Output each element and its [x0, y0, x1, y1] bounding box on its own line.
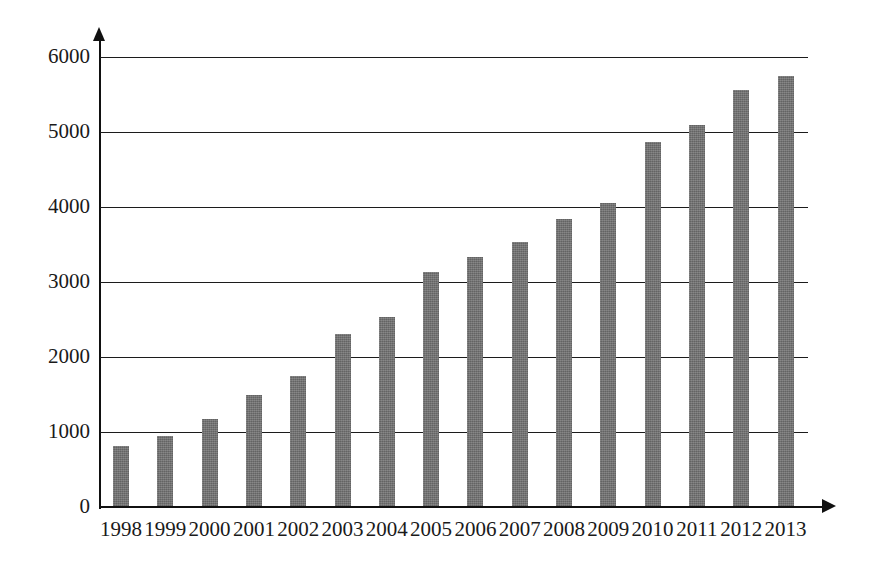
bar	[600, 203, 616, 507]
bar	[379, 317, 395, 507]
bars-layer	[100, 45, 824, 507]
bar	[645, 142, 661, 507]
y-tick-label-0: 0	[34, 496, 90, 517]
bar	[733, 90, 749, 507]
y-tick-label-5000: 5000	[34, 121, 90, 142]
x-axis-line	[99, 506, 823, 508]
bar	[246, 395, 262, 508]
bar	[157, 436, 173, 507]
bar	[467, 257, 483, 508]
y-tick-label-3000: 3000	[34, 271, 90, 292]
y-axis-arrow-icon	[93, 27, 105, 41]
y-axis-tick-labels: 0100020003000400050006000	[28, 0, 90, 568]
x-axis-tick-labels: 1998199920002001200220032004200520062007…	[100, 518, 824, 552]
bar	[556, 219, 572, 507]
bar	[335, 334, 351, 507]
bar	[689, 125, 705, 507]
bar	[202, 419, 218, 508]
bar	[778, 76, 794, 507]
bar	[290, 376, 306, 507]
y-tick-label-4000: 4000	[34, 196, 90, 217]
bar	[113, 446, 129, 507]
y-tick-label-6000: 6000	[34, 46, 90, 67]
bar-chart-figure: 0100020003000400050006000 19981999200020…	[0, 0, 878, 568]
x-axis-arrow-icon	[822, 499, 836, 513]
bar	[512, 242, 528, 507]
y-tick-label-1000: 1000	[34, 421, 90, 442]
x-tick-label-2013: 2013	[758, 518, 814, 541]
bar	[423, 272, 439, 508]
y-tick-label-2000: 2000	[34, 346, 90, 367]
